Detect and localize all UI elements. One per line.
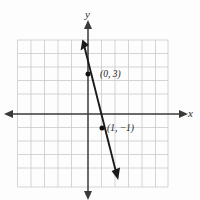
x-axis-arrow-right <box>179 110 188 118</box>
data-point-0-3 <box>86 72 91 77</box>
x-axis-label: x <box>188 108 193 119</box>
y-axis-arrow-up <box>84 20 92 29</box>
point-label-1-neg1: (1, −1) <box>107 124 134 134</box>
y-axis-label: y <box>85 9 90 20</box>
data-point-1-neg1 <box>100 126 105 131</box>
point-label-0-3: (0, 3) <box>100 70 121 80</box>
x-axis <box>4 110 188 118</box>
line-arrow-lower <box>112 168 120 181</box>
x-axis-arrow-left <box>4 110 13 118</box>
plotted-line <box>81 40 120 181</box>
graph-figure: y x (0, 3) (1, −1) <box>0 0 200 200</box>
y-axis-arrow-down <box>84 191 92 200</box>
coordinate-plane-canvas <box>0 0 200 200</box>
